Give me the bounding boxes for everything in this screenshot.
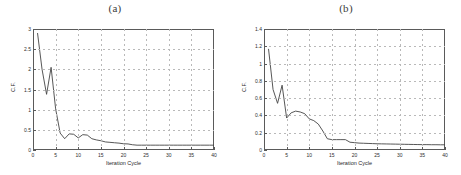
y-tick-mark bbox=[33, 69, 36, 70]
y-tick-mark bbox=[33, 150, 36, 151]
panel-b-caption: (b) bbox=[231, 2, 461, 14]
y-tick-mark bbox=[264, 64, 267, 65]
x-tick-label: 30 bbox=[166, 152, 172, 158]
x-tick-mark bbox=[377, 147, 378, 150]
x-tick-mark bbox=[355, 147, 356, 150]
grid-line-horizontal bbox=[264, 46, 445, 47]
x-axis-label-b: Iteration Cycle bbox=[264, 160, 445, 166]
y-axis-label-b: C.F. bbox=[241, 82, 247, 92]
x-tick-label: 25 bbox=[143, 152, 149, 158]
y-tick-label: 1.2 bbox=[248, 43, 262, 49]
x-tick-label: 5 bbox=[285, 152, 288, 158]
panel-a: (a) 051015202530354000.511.522.53 Iterat… bbox=[0, 0, 230, 175]
grid-line-horizontal bbox=[264, 133, 445, 134]
x-tick-label: 15 bbox=[329, 152, 335, 158]
grid-line-horizontal bbox=[264, 98, 445, 99]
x-tick-label: 5 bbox=[54, 152, 57, 158]
grid-line-horizontal bbox=[264, 64, 445, 65]
y-tick-label: 2 bbox=[17, 66, 31, 72]
x-tick-label: 40 bbox=[211, 152, 217, 158]
x-tick-mark bbox=[124, 147, 125, 150]
x-tick-mark bbox=[332, 147, 333, 150]
plot-area-a: 051015202530354000.511.522.53 bbox=[33, 29, 214, 150]
y-tick-mark bbox=[264, 133, 267, 134]
x-tick-label: 20 bbox=[352, 152, 358, 158]
y-tick-mark bbox=[264, 150, 267, 151]
y-tick-label: 0.5 bbox=[17, 127, 31, 133]
y-tick-mark bbox=[33, 49, 36, 50]
y-tick-label: 1 bbox=[248, 61, 262, 67]
x-tick-mark bbox=[287, 147, 288, 150]
y-axis-label-a: C.F. bbox=[10, 82, 16, 92]
grid-line-horizontal bbox=[264, 81, 445, 82]
x-tick-label: 40 bbox=[442, 152, 448, 158]
grid-line-horizontal bbox=[33, 69, 214, 70]
y-tick-label: 0.6 bbox=[248, 95, 262, 101]
y-tick-label: 1 bbox=[17, 107, 31, 113]
x-tick-mark bbox=[169, 147, 170, 150]
x-tick-mark bbox=[146, 147, 147, 150]
y-tick-label: 0 bbox=[248, 147, 262, 153]
grid-line-horizontal bbox=[33, 110, 214, 111]
y-tick-label: 3 bbox=[17, 26, 31, 32]
figure-sheet: (a) 051015202530354000.511.522.53 Iterat… bbox=[0, 0, 461, 175]
x-tick-mark bbox=[191, 147, 192, 150]
x-tick-label: 0 bbox=[263, 152, 266, 158]
x-tick-mark bbox=[214, 147, 215, 150]
grid-line-horizontal bbox=[33, 90, 214, 91]
plot-area-b: 051015202530354000.20.40.60.811.21.4 bbox=[264, 29, 445, 150]
panel-a-caption: (a) bbox=[0, 2, 230, 14]
x-tick-mark bbox=[56, 147, 57, 150]
y-tick-label: 2.5 bbox=[17, 46, 31, 52]
y-tick-label: 0.8 bbox=[248, 78, 262, 84]
x-tick-mark bbox=[400, 147, 401, 150]
x-tick-mark bbox=[101, 147, 102, 150]
y-tick-label: 0 bbox=[17, 147, 31, 153]
x-tick-label: 30 bbox=[397, 152, 403, 158]
y-tick-mark bbox=[264, 29, 267, 30]
y-tick-label: 0.2 bbox=[248, 130, 262, 136]
x-tick-mark bbox=[309, 147, 310, 150]
grid-line-horizontal bbox=[33, 130, 214, 131]
x-tick-mark bbox=[422, 147, 423, 150]
y-tick-label: 1.5 bbox=[17, 87, 31, 93]
y-tick-mark bbox=[33, 110, 36, 111]
y-tick-mark bbox=[264, 98, 267, 99]
grid-line-horizontal bbox=[264, 115, 445, 116]
y-tick-mark bbox=[33, 90, 36, 91]
y-tick-mark bbox=[264, 46, 267, 47]
y-tick-label: 1.4 bbox=[248, 26, 262, 32]
x-tick-label: 10 bbox=[75, 152, 81, 158]
x-tick-label: 0 bbox=[32, 152, 35, 158]
x-axis-label-a: Iteration Cycle bbox=[33, 160, 214, 166]
x-tick-label: 25 bbox=[374, 152, 380, 158]
y-tick-label: 0.4 bbox=[248, 112, 262, 118]
x-tick-label: 35 bbox=[189, 152, 195, 158]
x-tick-label: 10 bbox=[306, 152, 312, 158]
y-tick-mark bbox=[264, 81, 267, 82]
x-tick-label: 20 bbox=[121, 152, 127, 158]
grid-line-horizontal bbox=[33, 49, 214, 50]
x-tick-mark bbox=[78, 147, 79, 150]
x-tick-mark bbox=[445, 147, 446, 150]
y-tick-mark bbox=[33, 130, 36, 131]
y-tick-mark bbox=[33, 29, 36, 30]
x-tick-label: 35 bbox=[420, 152, 426, 158]
x-tick-label: 15 bbox=[98, 152, 104, 158]
panel-b: (b) 051015202530354000.20.40.60.811.21.4… bbox=[231, 0, 461, 175]
y-tick-mark bbox=[264, 115, 267, 116]
